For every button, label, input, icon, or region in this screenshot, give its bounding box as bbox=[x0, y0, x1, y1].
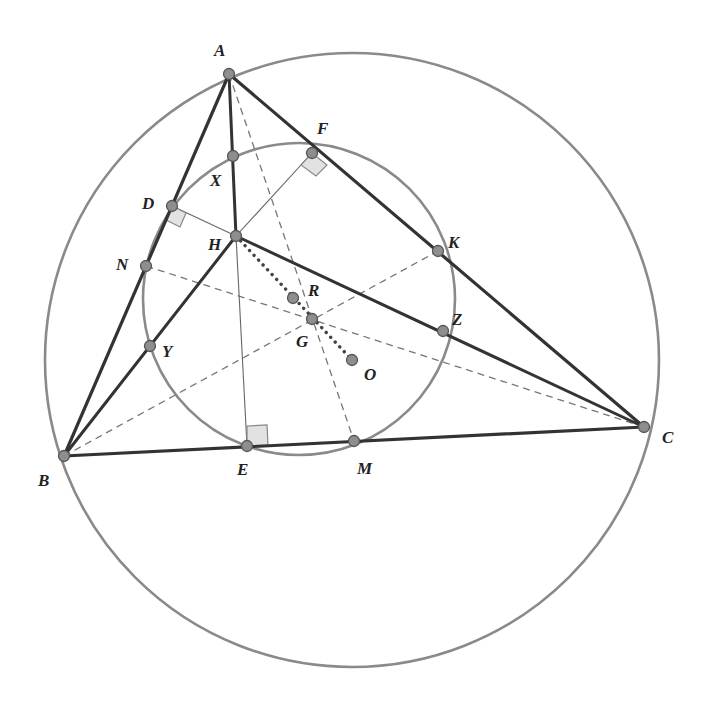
label-K: K bbox=[447, 233, 461, 252]
point-O bbox=[347, 355, 358, 366]
point-A bbox=[224, 69, 235, 80]
label-D: D bbox=[141, 194, 154, 213]
point-Y bbox=[145, 341, 156, 352]
point-X bbox=[228, 151, 239, 162]
label-E: E bbox=[236, 460, 248, 479]
label-X: X bbox=[209, 171, 222, 190]
median-C-N bbox=[146, 266, 644, 427]
label-M: M bbox=[356, 459, 373, 478]
label-H: H bbox=[207, 235, 222, 254]
point-E bbox=[242, 441, 253, 452]
label-C: C bbox=[662, 428, 674, 447]
altitude-H-E bbox=[236, 236, 247, 446]
label-B: B bbox=[37, 471, 49, 490]
points bbox=[59, 69, 650, 462]
label-G: G bbox=[296, 332, 309, 351]
point-D bbox=[167, 201, 178, 212]
geometry-diagram: A B C D E F H X Y Z K N M R G O bbox=[0, 0, 711, 712]
labels: A B C D E F H X Y Z K N M R G O bbox=[37, 41, 674, 490]
label-Z: Z bbox=[451, 310, 462, 329]
point-B bbox=[59, 451, 70, 462]
point-G bbox=[307, 314, 318, 325]
label-R: R bbox=[307, 281, 319, 300]
point-N bbox=[141, 261, 152, 272]
point-C bbox=[639, 422, 650, 433]
point-K bbox=[433, 246, 444, 257]
label-F: F bbox=[316, 119, 329, 138]
point-R bbox=[288, 293, 299, 304]
label-Y: Y bbox=[162, 342, 174, 361]
point-M bbox=[349, 436, 360, 447]
label-N: N bbox=[115, 255, 129, 274]
point-F bbox=[307, 148, 318, 159]
label-O: O bbox=[364, 365, 376, 384]
point-Z bbox=[438, 326, 449, 337]
label-A: A bbox=[213, 41, 225, 60]
point-H bbox=[231, 231, 242, 242]
